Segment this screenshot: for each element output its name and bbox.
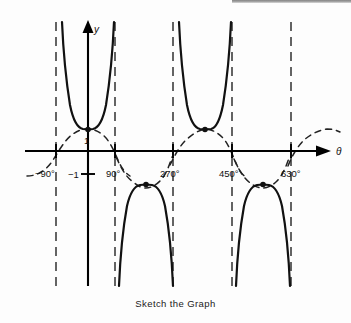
vertex-point-360deg — [202, 127, 208, 133]
vertex-point-540deg — [260, 182, 266, 188]
ytick-label-1: 1 — [84, 135, 89, 146]
secant-branch-3 — [179, 22, 231, 130]
figure-caption: Sketch the Graph — [0, 298, 351, 309]
ytick-label-minus-1: −1 — [68, 169, 79, 180]
vertex-point-180deg — [143, 182, 149, 188]
figure-panel: −90° 90° 270° 450° 630° 1 −1 y θ Sketch … — [0, 0, 351, 323]
secant-cosine-graph: −90° 90° 270° 450° 630° 1 −1 y θ — [0, 0, 351, 323]
xtick-label-90: 90° — [106, 168, 121, 179]
y-axis — [81, 20, 95, 286]
cosine-arc-5 — [288, 129, 340, 166]
xtick-label-630: 630° — [281, 168, 301, 179]
xtick-label-minus-90: −90° — [35, 168, 55, 179]
x-axis — [25, 144, 331, 158]
xtick-label-450: 450° — [219, 168, 239, 179]
theta-axis-label: θ — [336, 146, 342, 157]
x-axis-arrowhead — [316, 146, 331, 157]
secant-branch-2 — [119, 185, 173, 287]
xtick-label-270: 270° — [160, 168, 180, 179]
y-axis-label: y — [93, 24, 100, 35]
y-axis-arrowhead — [83, 20, 94, 33]
vertex-point-0deg — [85, 127, 91, 133]
secant-branch-4 — [236, 185, 290, 287]
